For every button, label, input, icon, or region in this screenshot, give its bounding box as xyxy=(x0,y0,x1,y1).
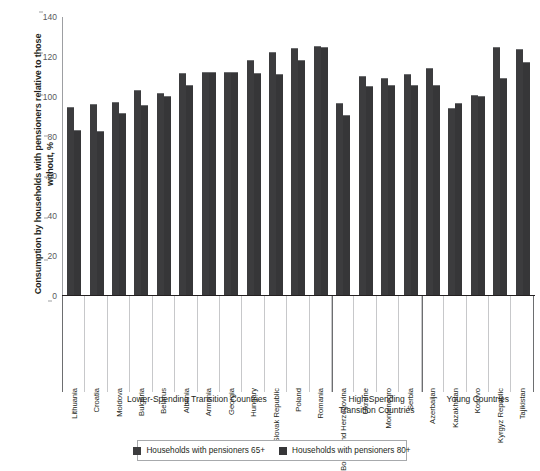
group-separator xyxy=(332,296,333,392)
bar-group xyxy=(242,17,264,296)
bar-pensioners-65plus xyxy=(112,102,119,296)
category-cell: Kyrgyz Republic xyxy=(488,296,510,392)
bar-pensioners-65plus xyxy=(269,52,276,296)
y-tick-mark xyxy=(39,53,43,54)
bar-group xyxy=(85,17,107,296)
bar-group xyxy=(422,17,444,296)
group-separator xyxy=(533,296,534,392)
group-band: Lower-Spending Transition Countries xyxy=(62,392,332,430)
bar-pensioners-80plus xyxy=(74,130,81,296)
bar-group xyxy=(220,17,242,296)
bar-pensioners-65plus xyxy=(247,60,254,296)
chart-legend: Households with pensioners 65+Households… xyxy=(137,440,407,461)
bar-pensioners-65plus xyxy=(291,48,298,296)
bar-pensioners-80plus xyxy=(478,96,485,296)
category-cell: Belarus xyxy=(152,296,174,392)
y-tick-label: 80 xyxy=(48,132,63,142)
category-cell: Ukraine xyxy=(353,296,375,392)
category-cell: Croatia xyxy=(84,296,106,392)
y-tick-mark xyxy=(44,177,48,178)
category-cell: Serbia xyxy=(398,296,420,392)
bar-pensioners-80plus xyxy=(231,72,238,296)
y-tick-label: 100 xyxy=(43,92,63,102)
group-band-label: Young Countries xyxy=(447,392,510,405)
category-cell: Bosnia and Herzegovina xyxy=(331,296,353,392)
bar-group xyxy=(63,17,85,296)
bar-pensioners-80plus xyxy=(411,85,418,296)
y-tick-mark xyxy=(44,259,48,260)
y-tick-label: 140 xyxy=(43,12,63,22)
group-band-label: Lower-Spending Transition Countries xyxy=(127,392,267,405)
bar-pensioners-80plus xyxy=(500,78,507,296)
category-cell: Montenegro xyxy=(376,296,398,392)
y-tick-label: 60 xyxy=(48,171,63,181)
bar-group xyxy=(287,17,309,296)
bar-pensioners-65plus xyxy=(426,68,433,296)
bar-pensioners-65plus xyxy=(157,93,164,296)
bar-pensioners-80plus xyxy=(119,113,126,296)
bar-pensioners-80plus xyxy=(164,96,171,296)
bar-pensioners-65plus xyxy=(471,95,478,296)
y-tick-label: 20 xyxy=(48,251,63,261)
bar-pensioners-80plus xyxy=(186,85,193,296)
bar-group xyxy=(130,17,152,296)
bar-pensioners-65plus xyxy=(314,46,321,296)
bar-pensioners-65plus xyxy=(90,104,97,296)
bar-pensioners-80plus xyxy=(276,74,283,296)
category-cell: Kazakhstan xyxy=(443,296,465,392)
bar-pensioners-80plus xyxy=(523,62,530,296)
bar-pensioners-80plus xyxy=(298,60,305,296)
bar-pensioners-80plus xyxy=(455,103,462,296)
bar-pensioners-80plus xyxy=(97,131,104,296)
category-cell: Georgia xyxy=(219,296,241,392)
group-band-row: Lower-Spending Transition CountriesHigh-… xyxy=(62,392,534,430)
legend-item[interactable]: Households with pensioners 65+ xyxy=(133,446,265,455)
legend-label: Households with pensioners 65+ xyxy=(146,446,265,455)
bar-pensioners-65plus xyxy=(404,74,411,296)
bar-group xyxy=(489,17,511,296)
bar-pensioners-65plus xyxy=(224,72,231,296)
category-cell: Hungary xyxy=(241,296,263,392)
category-cell: Albania xyxy=(174,296,196,392)
y-tick-label: 120 xyxy=(43,52,63,62)
y-axis-title: Consumption by households with pensioner… xyxy=(32,24,56,304)
legend-label: Households with pensioners 80+ xyxy=(292,446,411,455)
category-cell: Kosovo xyxy=(466,296,488,392)
bar-group xyxy=(310,17,332,296)
bar-pensioners-65plus xyxy=(381,78,388,296)
bar-group xyxy=(332,17,354,296)
bar-group xyxy=(198,17,220,296)
bar-pensioners-80plus xyxy=(209,72,216,296)
y-tick-mark xyxy=(39,94,43,95)
category-cell: Bulgaria xyxy=(129,296,151,392)
group-band: High-SpendingTransition Countries xyxy=(332,392,422,430)
group-separator xyxy=(62,296,63,392)
category-cell: Tajikistan xyxy=(510,296,533,392)
bar-pensioners-65plus xyxy=(359,76,366,296)
category-cell: Azerbaijan xyxy=(421,296,443,392)
bar-group xyxy=(377,17,399,296)
bar-pensioners-80plus xyxy=(254,73,261,296)
bar-pensioners-65plus xyxy=(134,90,141,296)
y-tick-mark xyxy=(48,301,52,302)
legend-swatch-icon xyxy=(279,447,287,455)
y-tick-label: 40 xyxy=(48,211,63,221)
category-cell: Slovak Republic xyxy=(264,296,286,392)
category-cell: Poland xyxy=(286,296,308,392)
bar-group xyxy=(399,17,421,296)
y-tick-mark xyxy=(39,12,43,13)
group-band-label: High-SpendingTransition Countries xyxy=(339,392,415,416)
legend-item[interactable]: Households with pensioners 80+ xyxy=(279,446,411,455)
group-separator xyxy=(422,296,423,392)
bar-group xyxy=(354,17,376,296)
category-cell: Lithuania xyxy=(62,296,84,392)
category-label-row: LithuaniaCroatiaMoldovaBulgariaBelarusAl… xyxy=(62,296,534,392)
bar-pensioners-65plus xyxy=(516,49,523,296)
bar-group xyxy=(265,17,287,296)
category-cell: Armenia xyxy=(197,296,219,392)
bar-group xyxy=(153,17,175,296)
y-tick-mark xyxy=(44,135,48,136)
bar-pensioners-65plus xyxy=(448,108,455,296)
bar-pensioners-80plus xyxy=(141,105,148,296)
